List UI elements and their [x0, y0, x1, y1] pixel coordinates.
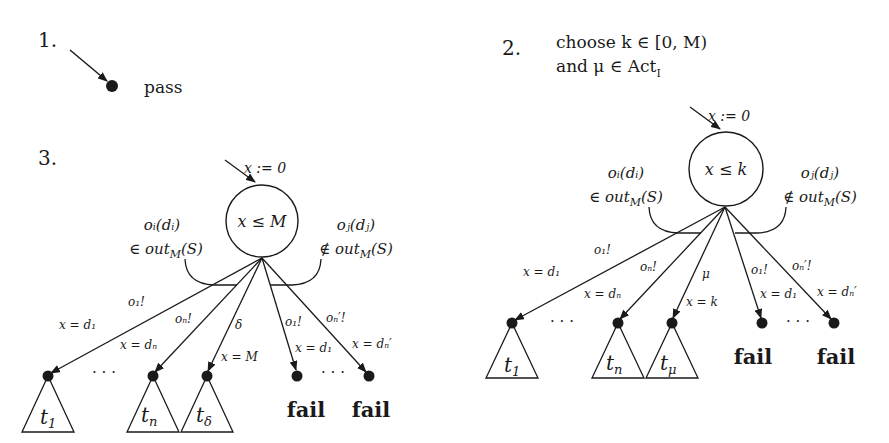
right-group-line1: oⱼ(dⱼ) — [337, 216, 375, 234]
edge-fail-on — [725, 207, 831, 319]
edge-label-action: δ — [235, 318, 242, 332]
edge-label-action: o₁! — [285, 315, 302, 329]
part-3: 3. x := 0 x ≤ M oᵢ(dᵢ) ∈ outM(S) oⱼ(dⱼ) … — [22, 146, 393, 432]
part-2: 2. choose k ∈ [0, M) and μ ∈ ActI x := 0… — [486, 32, 857, 379]
invariant-label: x ≤ M — [238, 212, 288, 231]
diagram-canvas: 1. pass 2. choose k ∈ [0, M) and μ ∈ Act… — [0, 0, 889, 443]
subtree-label: tμ — [660, 351, 677, 377]
edge-label-action: o₁! — [751, 263, 768, 277]
left-group-line2: ∈ outM(S) — [129, 240, 203, 261]
subtree-label: tn — [606, 351, 622, 377]
edge-label-action: oₙ′! — [326, 311, 346, 325]
pass-label: pass — [144, 77, 182, 97]
edge-label-action: o₁! — [594, 243, 611, 257]
edge-label-guard: x = dₙ′ — [817, 285, 857, 299]
right-group-line1: oⱼ(dⱼ) — [801, 164, 839, 182]
edge-label-guard: x = dₙ — [584, 287, 621, 301]
part-2-number: 2. — [502, 36, 521, 60]
ellipsis: · · · — [321, 363, 345, 381]
fail-label: fail — [287, 397, 326, 422]
edge-label-guard: x = d₁ — [59, 318, 96, 332]
invariant-label: x ≤ k — [705, 160, 747, 179]
fail-label: fail — [734, 344, 773, 369]
subtree-label: t1 — [40, 405, 56, 431]
right-group-line2: ∉ outM(S) — [783, 188, 857, 209]
edge-label-guard: x = dₙ — [120, 338, 157, 352]
fail-dot — [829, 318, 840, 329]
fail-dot — [364, 371, 375, 382]
subtree-label: tδ — [196, 403, 212, 429]
part-1-number: 1. — [38, 28, 57, 52]
part-2-choose-line: choose k ∈ [0, M) — [556, 32, 707, 52]
fail-dot — [757, 318, 768, 329]
right-group-line2: ∉ outM(S) — [319, 240, 393, 261]
ellipsis: · · · — [550, 312, 574, 330]
left-group-line1: oᵢ(dᵢ) — [144, 216, 181, 234]
edge-label-action: oₙ! — [175, 312, 192, 326]
edge-fail-o1 — [262, 258, 296, 370]
subtree-label: t1 — [504, 353, 520, 379]
right-group-brace — [735, 207, 786, 233]
init-assignment: x := 0 — [244, 160, 286, 176]
left-group-brace — [649, 207, 701, 233]
subtree-label: tn — [141, 403, 157, 429]
fail-label: fail — [817, 344, 856, 369]
edge-label-action: o₁! — [128, 295, 145, 309]
edge-label-action: oₙ′! — [792, 259, 812, 273]
init-assignment: x := 0 — [708, 108, 750, 124]
part-3-number: 3. — [38, 146, 57, 170]
edge-label-guard: x = d₁ — [523, 265, 560, 279]
part-1: 1. pass — [38, 28, 182, 97]
fail-label: fail — [352, 397, 391, 422]
pass-state-dot — [106, 80, 118, 92]
edge-label-guard: x = k — [686, 295, 718, 309]
ellipsis: · · · — [786, 312, 810, 330]
left-group-line1: oᵢ(dᵢ) — [608, 164, 645, 182]
edge-label-action: oₙ! — [640, 260, 657, 274]
initial-arrow — [70, 50, 107, 81]
edge-label-guard: x = dₙ′ — [352, 337, 392, 351]
edge-label-guard: x = d₁ — [760, 287, 797, 301]
left-group-brace — [185, 259, 237, 285]
ellipsis: · · · — [92, 363, 116, 381]
part-2-and-line: and μ ∈ ActI — [556, 56, 661, 80]
edge-label-guard: x = M — [221, 350, 258, 364]
edge-label-action: μ — [702, 267, 710, 281]
fail-dot — [292, 371, 303, 382]
edge-label-guard: x = d₁ — [295, 341, 332, 355]
right-group-brace — [270, 259, 321, 285]
left-group-line2: ∈ outM(S) — [589, 188, 663, 209]
